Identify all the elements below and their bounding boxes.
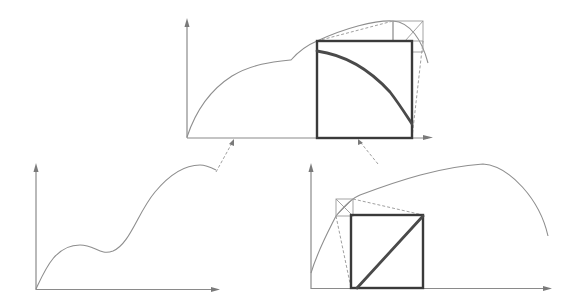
top-curve xyxy=(187,21,428,137)
bottom-right-panel xyxy=(309,163,553,291)
connectors xyxy=(216,139,378,172)
top-x-arrow-icon xyxy=(423,135,433,140)
connector-left-arrow-icon xyxy=(229,139,234,146)
top-big-box xyxy=(317,41,412,138)
diagram-canvas xyxy=(0,0,580,304)
br-curve xyxy=(311,164,548,273)
connector-right xyxy=(361,143,378,164)
top-inner-curve xyxy=(317,51,412,124)
top-panel xyxy=(185,18,434,140)
br-y-arrow-icon xyxy=(309,163,314,172)
top-small-box-diagonal xyxy=(405,21,423,41)
bl-curve xyxy=(36,165,216,289)
top-y-arrow-icon xyxy=(185,18,190,27)
connector-left xyxy=(216,143,232,172)
bl-x-arrow-icon xyxy=(211,287,220,292)
br-diagonal xyxy=(357,216,423,288)
bl-y-arrow-icon xyxy=(34,163,39,172)
br-projection-line xyxy=(336,216,351,288)
br-x-arrow-icon xyxy=(543,286,552,291)
top-projection-line xyxy=(412,41,423,138)
bottom-left-panel xyxy=(34,163,221,292)
br-projection-line xyxy=(353,199,423,215)
top-projection-line xyxy=(317,21,393,41)
